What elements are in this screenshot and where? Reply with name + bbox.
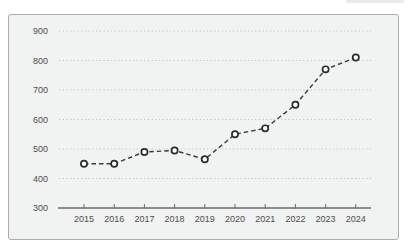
y-tick-label: 800 [33, 56, 48, 66]
data-point-marker [292, 102, 298, 108]
x-tick-label: 2019 [195, 214, 215, 224]
data-point-marker [262, 125, 268, 131]
x-tick-label: 2020 [225, 214, 245, 224]
data-point-marker [202, 156, 208, 162]
y-tick-label: 500 [33, 144, 48, 154]
data-point-marker [232, 131, 238, 137]
series-line [84, 58, 356, 164]
data-point-marker [141, 149, 147, 155]
y-tick-label: 300 [33, 203, 48, 213]
x-tick-label: 2024 [346, 214, 366, 224]
x-tick-label: 2017 [134, 214, 154, 224]
data-point-marker [172, 147, 178, 153]
page: { "colors": { "page_background": "#fffff… [0, 0, 409, 248]
cropped-ui-fragment [346, 0, 404, 3]
x-tick-label: 2016 [104, 214, 124, 224]
data-point-marker [353, 54, 359, 60]
x-tick-label: 2018 [165, 214, 185, 224]
x-tick-label: 2021 [255, 214, 275, 224]
data-point-marker [323, 66, 329, 72]
data-point-marker [81, 161, 87, 167]
line-chart: 3004005006007008009002015201620172018201… [9, 15, 398, 239]
y-tick-label: 400 [33, 174, 48, 184]
x-tick-label: 2022 [285, 214, 305, 224]
y-tick-label: 900 [33, 26, 48, 36]
y-tick-label: 700 [33, 85, 48, 95]
x-tick-label: 2015 [74, 214, 94, 224]
line-chart-card: 3004005006007008009002015201620172018201… [8, 14, 399, 240]
data-point-marker [111, 161, 117, 167]
y-tick-label: 600 [33, 115, 48, 125]
x-tick-label: 2023 [316, 214, 336, 224]
